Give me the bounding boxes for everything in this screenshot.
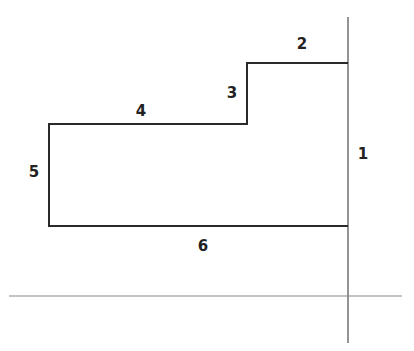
shape-outline [49, 63, 348, 226]
edge-label-2: 2 [297, 37, 307, 52]
edge-label-3: 3 [227, 86, 237, 101]
diagram-svg [0, 0, 414, 351]
diagram-canvas: 1 2 3 4 5 6 [0, 0, 414, 351]
edge-label-6: 6 [198, 239, 208, 254]
edge-label-5: 5 [29, 165, 39, 180]
edge-label-4: 4 [136, 104, 146, 119]
edge-label-1: 1 [358, 147, 368, 162]
